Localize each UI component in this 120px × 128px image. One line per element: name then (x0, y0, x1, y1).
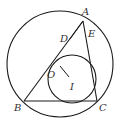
geometry-diagram: A B C D E O I (0, 0, 120, 128)
label-o: O (47, 69, 55, 80)
label-d: D (59, 33, 68, 44)
label-b: B (13, 102, 21, 113)
label-a: A (81, 6, 89, 17)
label-e: E (87, 28, 96, 39)
segment-de (70, 21, 83, 39)
label-c: C (99, 102, 107, 113)
segment-oi (60, 66, 69, 77)
label-i: I (69, 81, 75, 92)
